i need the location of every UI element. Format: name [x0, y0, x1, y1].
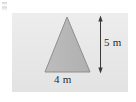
diagram-canvas: [0, 0, 136, 102]
triangle-figure: 5 m 4 m: [0, 0, 136, 102]
height-dimension-label: 5 m: [104, 37, 121, 48]
base-dimension-label: 4 m: [54, 74, 71, 85]
